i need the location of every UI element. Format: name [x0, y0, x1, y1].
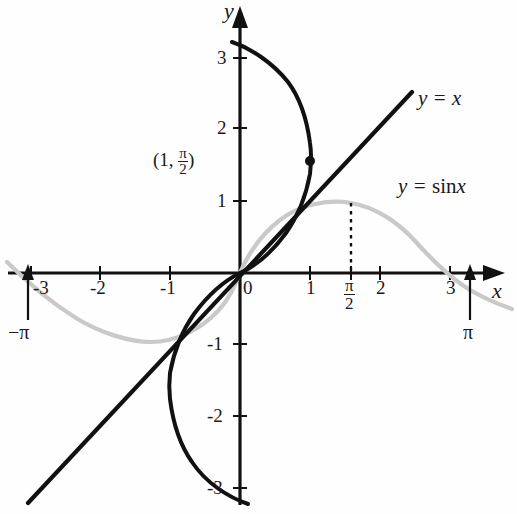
arcsine-upper-branch [232, 42, 311, 273]
curve-label-y-equals-x: y = x [418, 86, 461, 111]
y-tick-label-2: 2 [217, 117, 227, 139]
y-tick-label-1: 1 [217, 190, 227, 212]
y-tick-label-3: 3 [217, 47, 227, 69]
point-annotation-y-numerator: π [178, 146, 188, 161]
y-equals-x-rhs: x [452, 86, 461, 110]
point-marker-1-pi-over-2 [305, 156, 315, 166]
y-equals-sinx-argument: x [457, 174, 466, 198]
x-axis-group [8, 265, 505, 281]
pi-marker-label: π [463, 321, 473, 344]
x-tick-label-3: 3 [446, 277, 456, 299]
y-equals-x-lhs: y [418, 86, 427, 110]
pi-over-2-denominator: 2 [344, 294, 355, 312]
x-tick-label-neg3: -3 [33, 277, 49, 299]
pi-over-2-numerator: π [344, 277, 355, 294]
curve-label-y-equals-sin-x: y = sinx [398, 174, 466, 199]
y-axis-group [232, 6, 248, 505]
minus-pi-marker-label: −π [8, 321, 29, 344]
point-annotation-y-denominator: 2 [178, 161, 188, 177]
x-axis-label: x [492, 278, 502, 304]
x-tick-label-1: 1 [306, 277, 316, 299]
origin-label: 0 [243, 277, 253, 299]
y-axis-arrowhead [232, 6, 248, 28]
y-tick-label-neg1: -1 [207, 333, 223, 355]
point-annotation-label: (1, π 2 ) [153, 146, 194, 177]
x-tick-label-2: 2 [376, 277, 386, 299]
graph-canvas [0, 0, 517, 514]
x-tick-label-pi-over-2: π 2 [344, 277, 355, 312]
y-tick-label-neg3: -3 [207, 477, 223, 499]
graph-figure: y x 0 -3 -2 -1 1 2 3 π 2 3 2 1 -1 -2 -3 … [0, 0, 517, 514]
y-equals-sinx-operator: = [413, 174, 427, 198]
x-tick-label-neg1: -1 [160, 277, 176, 299]
y-axis-label: y [224, 0, 234, 24]
x-tick-label-neg2: -2 [90, 277, 106, 299]
y-tick-label-neg2: -2 [207, 405, 223, 427]
point-annotation-open: (1, [153, 149, 178, 170]
point-annotation-close: ) [188, 149, 194, 170]
y-equals-sinx-lhs: y [398, 174, 407, 198]
y-equals-x-operator: = [433, 86, 447, 110]
y-equals-sinx-function: sin [432, 174, 457, 198]
